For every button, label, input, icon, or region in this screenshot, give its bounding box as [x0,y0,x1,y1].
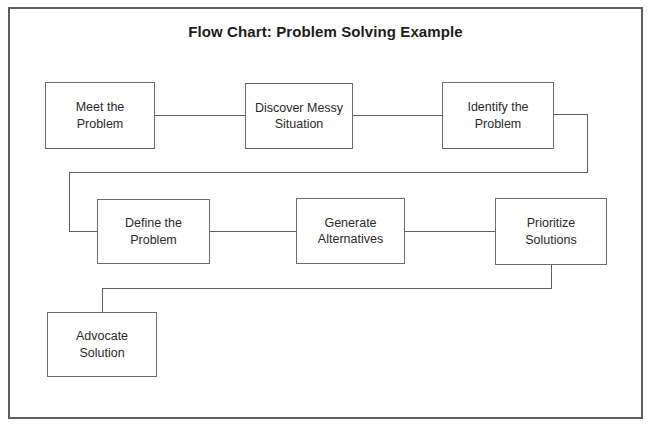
connector-prioritize-to-advocate-seg1 [551,265,552,289]
connector-identify-to-define-seg3 [69,172,588,173]
node-meet-the-problem: Meet the Problem [45,82,155,149]
connector-identify-to-define-seg2 [587,114,588,173]
node-generate-alternatives: Generate Alternatives [296,198,405,264]
node-label-line: Meet the [76,99,125,115]
node-label-line: Solution [79,345,124,361]
node-label-line: Situation [275,116,324,132]
connector-define-to-generate [210,231,296,232]
node-label-line: Advocate [76,328,128,344]
node-define-the-problem: Define the Problem [97,199,210,264]
connector-identify-to-define-seg1 [554,114,587,115]
node-label-line: Problem [130,232,177,248]
node-label-line: Prioritize [527,215,576,231]
connector-identify-to-define-seg5 [69,231,97,232]
node-discover-messy-situation: Discover Messy Situation [245,83,353,149]
flow-chart-page: Flow Chart: Problem Solving Example Meet… [0,0,651,427]
node-label-line: Alternatives [318,231,383,247]
node-label-line: Generate [324,215,376,231]
node-label-line: Discover Messy [255,100,343,116]
connector-generate-to-prioritize [405,231,495,232]
connector-prioritize-to-advocate-seg2 [102,288,552,289]
node-label-line: Problem [475,116,522,132]
node-advocate-solution: Advocate Solution [47,312,157,377]
connector-identify-to-define-seg4 [69,172,70,232]
connector-meet-to-discover [155,115,245,116]
node-prioritize-solutions: Prioritize Solutions [495,198,607,265]
node-identify-the-problem: Identify the Problem [442,82,554,149]
node-label-line: Solutions [525,232,576,248]
node-label-line: Problem [77,116,124,132]
node-label-line: Identify the [467,99,528,115]
connector-discover-to-identify [353,115,442,116]
connector-prioritize-to-advocate-seg3 [102,288,103,312]
node-label-line: Define the [125,215,182,231]
chart-title: Flow Chart: Problem Solving Example [0,23,651,40]
